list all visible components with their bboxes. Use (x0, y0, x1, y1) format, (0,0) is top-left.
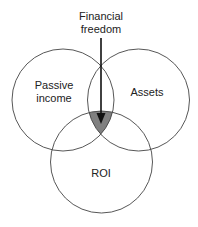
label-roi: ROI (91, 167, 111, 179)
venn-diagram: Financial freedom Passive income Assets … (0, 0, 198, 227)
title-line1: Financial (79, 10, 123, 22)
label-assets: Assets (130, 86, 164, 98)
label-income: income (36, 92, 71, 104)
title-line2: freedom (81, 23, 121, 35)
label-passive: Passive (35, 79, 74, 91)
circle-assets (88, 49, 190, 151)
intersection-region (51, 111, 153, 213)
